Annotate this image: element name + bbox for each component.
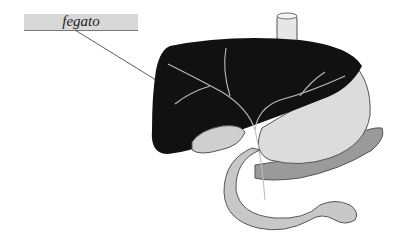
leader-line (75, 30, 156, 80)
anatomy-illustration (0, 0, 407, 236)
